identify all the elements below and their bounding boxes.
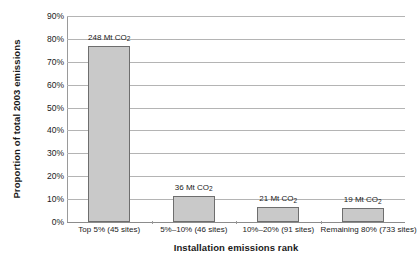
y-tick-label: 60% [24, 80, 64, 90]
x-tick-label: Top 5% (45 sites) [67, 224, 152, 236]
y-tick-label: 80% [24, 34, 64, 44]
x-tick-mark [152, 221, 153, 224]
bar-value-label: 19 Mt CO2 [318, 195, 408, 205]
bar-chart: Proportion of total 2003 emissions 90% 8… [0, 0, 420, 264]
y-tick-label: 90% [24, 11, 64, 21]
bar-value-label: 21 Mt CO2 [233, 194, 323, 204]
bar[interactable] [342, 208, 384, 222]
bar[interactable] [257, 207, 299, 222]
y-tick-label: 30% [24, 148, 64, 158]
x-tick-mark [321, 221, 322, 224]
y-tick-label: 70% [24, 57, 64, 67]
x-tick-label: Remaining 80% (733 sites) [321, 224, 406, 236]
x-tick-label: 5%–10% (46 sites) [152, 224, 237, 236]
y-tick-label: 20% [24, 171, 64, 181]
bars-layer: 248 Mt CO236 Mt CO221 Mt CO219 Mt CO2 [67, 16, 405, 222]
y-tick-label: 10% [24, 194, 64, 204]
x-tick-label: 10%–20% (91 sites) [236, 224, 321, 236]
y-axis-tick-labels: 90% 80% 70% 60% 50% 40% 30% 20% 10% 0% [24, 0, 64, 264]
x-tick-mark [236, 221, 237, 224]
bar-value-label: 36 Mt CO2 [149, 183, 239, 193]
y-tick-label: 40% [24, 125, 64, 135]
x-axis-title: Installation emissions rank [67, 242, 405, 253]
y-axis-title: Proportion of total 2003 emissions [9, 12, 25, 226]
plot-area: 248 Mt CO236 Mt CO221 Mt CO219 Mt CO2 [67, 16, 405, 222]
bar-value-label: 248 Mt CO2 [64, 33, 154, 43]
y-tick-label: 0% [24, 217, 64, 227]
y-tick-label: 50% [24, 103, 64, 113]
x-axis-tick-labels: Top 5% (45 sites)5%–10% (46 sites)10%–20… [67, 224, 405, 238]
bar[interactable] [88, 46, 130, 222]
bar[interactable] [173, 196, 215, 222]
